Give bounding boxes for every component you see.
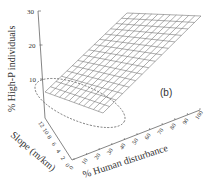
slope-tick-label: 2 [60,155,67,161]
slope-tick-label: 12 [37,120,45,128]
slope-tick-label: 10 [42,127,50,135]
disturbance-tick-label: 30 [106,147,114,155]
disturbance-tick-label: 50 [131,137,139,145]
panel-label: (b) [160,87,172,98]
disturbance-tick-label: 20 [93,152,101,160]
disturbance-axis-label: % Human disturbance [81,142,169,180]
slope-tick-label: 8 [46,134,53,140]
z-tick-label: 30 [27,8,35,16]
surface-plot: 102030 121086420 0102030405060708090100 … [0,0,212,188]
disturbance-tick-label: 60 [144,132,152,140]
slope-tick-label: 6 [51,141,58,147]
disturbance-tick-label: 40 [118,142,126,150]
disturbance-tick-label: 80 [169,122,177,130]
disturbance-tick-label: 70 [156,127,164,135]
z-axis-label: % High-P individuals [6,26,17,112]
disturbance-tick-label: 90 [181,117,189,125]
disturbance-tick-label: 10 [81,157,89,165]
disturbance-tick-label: 0 [68,165,75,171]
z-tick-label: 10 [29,76,37,84]
slope-tick-label: 4 [55,148,62,154]
surface-mesh [45,13,201,113]
z-tick-label: 20 [29,42,37,50]
